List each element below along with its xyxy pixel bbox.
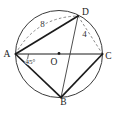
- label-point-a: A: [4, 49, 11, 59]
- label-point-c: C: [105, 51, 111, 61]
- label-point-b: B: [60, 97, 66, 107]
- label-angle-bac: 45°: [26, 58, 36, 66]
- chord-ad: [16, 16, 79, 54]
- geometry-figure: A B C D O 8 4 45°: [0, 0, 117, 113]
- vertex-dot-a: [14, 53, 16, 55]
- chord-bd: [61, 16, 78, 97]
- label-length-dc: 4: [82, 29, 87, 39]
- label-center-o: O: [51, 57, 58, 67]
- vertex-dot-c: [101, 53, 103, 55]
- label-length-ad: 8: [40, 19, 45, 29]
- center-dot: [58, 52, 61, 55]
- label-point-d: D: [82, 7, 89, 17]
- vertex-dot-d: [77, 15, 79, 17]
- diagram-canvas: A B C D O 8 4 45°: [0, 0, 117, 113]
